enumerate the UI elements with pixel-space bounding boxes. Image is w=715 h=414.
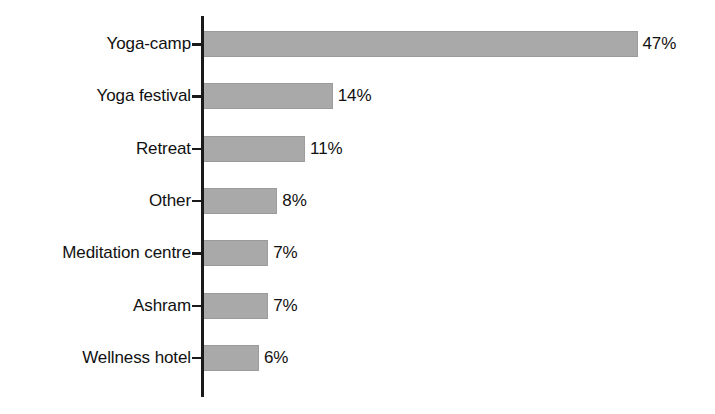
- axis-tick-mark: [192, 200, 202, 203]
- category-label: Other: [149, 187, 191, 215]
- bar-value-label: 14%: [338, 82, 372, 110]
- bar-chart: Yoga-camp47%Yoga festival14%Retreat11%Ot…: [0, 0, 715, 414]
- bar-value-label: 7%: [273, 292, 297, 320]
- bar-value-label: 8%: [282, 187, 306, 215]
- axis-tick-mark: [192, 305, 202, 308]
- bar: [204, 293, 269, 319]
- bar: [204, 136, 306, 162]
- bar-row: Retreat11%: [0, 135, 715, 163]
- bar-row: Meditation centre7%: [0, 239, 715, 267]
- bar-value-label: 7%: [273, 239, 297, 267]
- axis-tick-mark: [192, 357, 202, 360]
- category-label: Yoga festival: [97, 82, 191, 110]
- category-label: Yoga-camp: [107, 30, 191, 58]
- bar: [204, 83, 333, 109]
- bar: [204, 345, 259, 371]
- axis-tick-mark: [192, 95, 202, 98]
- bar-row: Ashram7%: [0, 292, 715, 320]
- axis-tick-mark: [192, 252, 202, 255]
- category-label: Meditation centre: [62, 239, 191, 267]
- axis-tick-mark: [192, 43, 202, 46]
- category-label: Ashram: [133, 292, 191, 320]
- axis-tick-mark: [192, 148, 202, 151]
- bar: [204, 188, 278, 214]
- bar-row: Yoga-camp47%: [0, 30, 715, 58]
- bar-value-label: 6%: [264, 344, 288, 372]
- bar-value-label: 47%: [643, 30, 677, 58]
- category-label: Wellness hotel: [82, 344, 191, 372]
- bar-value-label: 11%: [310, 135, 342, 163]
- bar-row: Yoga festival14%: [0, 82, 715, 110]
- bar: [204, 240, 269, 266]
- plot-area: Yoga-camp47%Yoga festival14%Retreat11%Ot…: [0, 0, 715, 414]
- bar: [204, 31, 638, 57]
- bar-row: Other8%: [0, 187, 715, 215]
- category-label: Retreat: [136, 135, 191, 163]
- bar-row: Wellness hotel6%: [0, 344, 715, 372]
